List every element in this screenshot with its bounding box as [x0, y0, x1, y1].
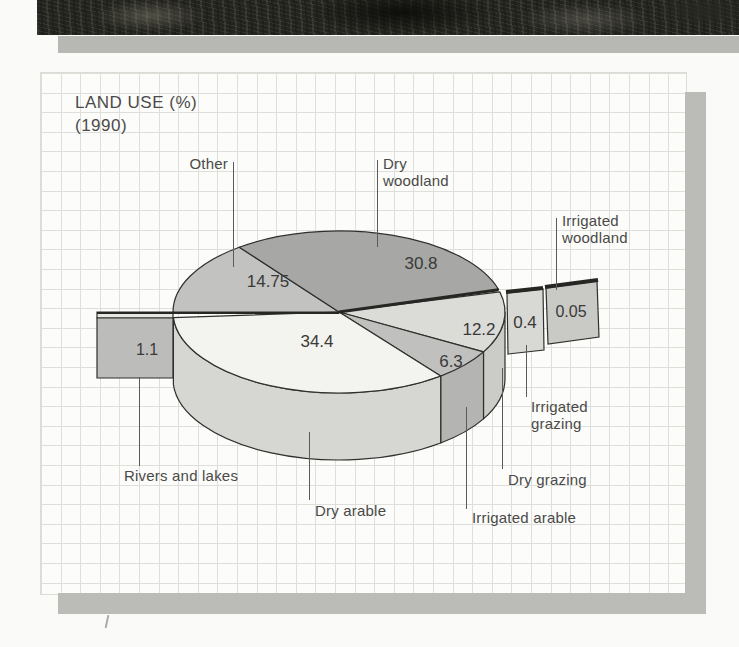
value-label-irrigated-woodland: 0.05	[555, 303, 586, 320]
leader-rivers-and-lakes	[139, 377, 140, 466]
leader-irrigated-arable	[466, 407, 467, 509]
label-dry-arable: Dry arable	[315, 502, 415, 519]
label-dry-grazing: Dry grazing	[508, 471, 618, 488]
label-rivers-and-lakes: Rivers and lakes	[124, 467, 284, 484]
label-other: Other	[166, 155, 228, 172]
value-label-dry-woodland: 30.8	[404, 254, 437, 273]
value-label-irrigated-grazing: 0.4	[513, 313, 537, 332]
label-dry-woodland: Dry woodland	[383, 155, 468, 190]
label-irrigated-arable: Irrigated arable	[472, 509, 612, 526]
label-irrigated-woodland: Irrigated woodland	[562, 212, 642, 247]
pie-chart: 14.7530.80.050.412.26.334.41.1	[0, 0, 739, 647]
leader-dry-woodland	[377, 160, 378, 247]
leader-dry-arable	[309, 432, 310, 500]
leader-irrigated-woodland	[556, 218, 557, 290]
value-label-dry-grazing: 12.2	[462, 320, 495, 339]
value-label-irrigated-arable: 6.3	[439, 352, 463, 371]
value-label-dry-arable: 34.4	[300, 332, 333, 351]
leader-irrigated-grazing	[526, 345, 527, 397]
value-label-rivers-and-lakes: 1.1	[136, 341, 158, 358]
leader-dry-grazing	[502, 368, 503, 469]
leader-other	[233, 162, 234, 267]
label-irrigated-grazing: Irrigated grazing	[531, 398, 611, 433]
value-label-other: 14.75	[247, 272, 290, 291]
